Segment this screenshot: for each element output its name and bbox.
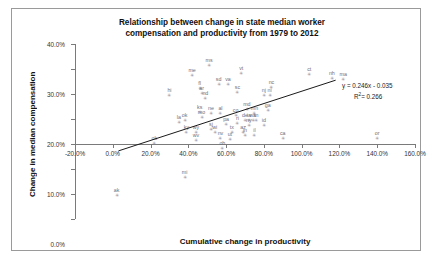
regression-r-squared: R2= 0.266 <box>342 90 393 101</box>
y-tick-label: 40.0% <box>47 41 65 48</box>
y-tick-label: 10.0% <box>47 191 65 198</box>
y-tick-label: 30.0% <box>47 91 65 98</box>
y-tick-label: 20.0% <box>47 141 65 148</box>
chart-title-line-1: Relationship between change in state med… <box>72 17 372 28</box>
r-squared-value: = 0.266 <box>361 93 382 100</box>
chart-title: Relationship between change in state med… <box>72 17 372 39</box>
y-tick-label: 0.0% <box>50 241 65 248</box>
plot-area: 40.0%30.0%20.0%10.0%0.0%-10.0%-20.0%-30.… <box>75 44 415 219</box>
y-tick: -30.0% <box>71 219 75 220</box>
trendline <box>75 44 415 219</box>
x-axis-title: Cumulative change in productivity <box>75 237 415 246</box>
chart-container: Relationship between change in state med… <box>11 8 421 251</box>
y-axis-title: Change in median compensation <box>26 59 38 209</box>
x-tick <box>415 144 416 148</box>
regression-equation-annotation: y = 0.246x - 0.035 R2= 0.266 <box>342 81 393 101</box>
regression-equation: y = 0.246x - 0.035 <box>342 81 393 90</box>
chart-title-line-2: compensation and productivity from 1979 … <box>72 28 372 39</box>
